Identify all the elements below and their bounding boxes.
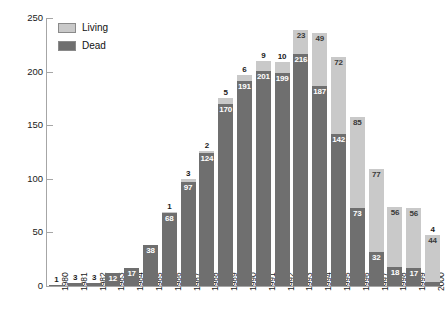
bar-value-label-living: 44	[425, 236, 440, 245]
bar-value-label-dead: 191	[237, 82, 252, 91]
bar-segment-living[interactable]	[275, 62, 290, 73]
bar-value-label-living: 9	[256, 51, 271, 60]
legend-swatch-living-icon	[58, 23, 76, 33]
bar-segment-dead[interactable]	[49, 285, 64, 286]
legend-item-dead: Dead	[58, 38, 108, 53]
bar-value-label-dead: 73	[350, 209, 365, 218]
bar-column[interactable]: 1916	[237, 75, 252, 286]
bar-segment-living[interactable]	[199, 151, 214, 153]
bar-segment-dead[interactable]	[256, 71, 271, 286]
bar-segment-dead[interactable]	[162, 213, 177, 286]
bar-segment-living[interactable]	[237, 75, 252, 81]
bar-value-label-living: 72	[331, 58, 346, 67]
bar-value-label-dead: 1	[49, 275, 64, 284]
bar-value-label-dead: 187	[312, 87, 327, 96]
bar-value-label-dead: 216	[293, 55, 308, 64]
bar-segment-dead[interactable]	[87, 283, 102, 286]
bar-value-label-living: 1	[162, 202, 177, 211]
bar-column[interactable]: 1	[49, 285, 64, 286]
bar-segment-living[interactable]	[350, 117, 365, 208]
bar-segment-dead[interactable]	[331, 134, 346, 286]
bar-column[interactable]: 38	[143, 245, 158, 286]
y-axis-tick-label: 250	[7, 13, 43, 22]
bar-segment-dead[interactable]	[293, 54, 308, 286]
bar-column[interactable]: 7385	[350, 117, 365, 286]
bar-segment-dead[interactable]	[237, 81, 252, 286]
bar-value-label-living: 85	[350, 118, 365, 127]
bar-value-label-living: 5	[218, 88, 233, 97]
bar-value-label-living: 2	[199, 141, 214, 150]
bar-column[interactable]: 3	[87, 283, 102, 286]
bar-value-label-dead: 18	[387, 268, 402, 277]
bar-segment-dead[interactable]	[199, 153, 214, 286]
bar-value-label-dead: 199	[275, 74, 290, 83]
bar-value-label-living: 77	[369, 170, 384, 179]
bar-column[interactable]: 1242	[199, 151, 214, 286]
bar-value-label-dead: 17	[406, 269, 421, 278]
bar-value-label-dead: 12	[105, 274, 120, 283]
bar-column[interactable]: 973	[181, 179, 196, 286]
bar-column[interactable]: 18749	[312, 33, 327, 286]
bar-segment-living[interactable]	[162, 212, 177, 213]
bar-segment-dead[interactable]	[425, 282, 440, 286]
bar-segment-living[interactable]	[369, 169, 384, 252]
bar-value-label-dead: 97	[181, 183, 196, 192]
bar-column[interactable]: 681	[162, 212, 177, 286]
bar-value-label-living: 6	[237, 65, 252, 74]
bar-value-label-living: 23	[293, 31, 308, 40]
bar-value-label-dead: 170	[218, 105, 233, 114]
bar-column[interactable]: 12	[105, 273, 120, 286]
legend-label-living: Living	[82, 23, 108, 33]
bar-column[interactable]: 2019	[256, 61, 271, 286]
legend-label-dead: Dead	[82, 41, 106, 51]
bar-segment-dead[interactable]	[68, 283, 83, 286]
y-axis-tick-label: 150	[7, 120, 43, 129]
bar-segment-dead[interactable]	[181, 182, 196, 286]
stacked-bar-chart: 050100150200250 198019811982198319841985…	[0, 0, 447, 334]
bar-column[interactable]: 14272	[331, 57, 346, 286]
bar-value-label-living: 49	[312, 34, 327, 43]
legend-swatch-dead-icon	[58, 41, 76, 51]
bar-segment-living[interactable]	[218, 98, 233, 103]
y-axis-tick-label: 50	[7, 227, 43, 236]
bar-value-label-dead: 38	[143, 246, 158, 255]
bar-segment-living[interactable]	[331, 57, 346, 134]
bar-value-label-dead: 3	[87, 273, 102, 282]
y-axis-tick-label: 200	[7, 67, 43, 76]
bar-value-label-dead: 124	[199, 154, 214, 163]
plot-area: 1331217386819731242170519162019199102162…	[47, 18, 442, 286]
bar-value-label-dead: 32	[369, 253, 384, 262]
y-axis-tick-label: 0	[7, 281, 43, 290]
bar-value-label-living: 56	[387, 208, 402, 217]
bar-segment-dead[interactable]	[275, 73, 290, 286]
bar-value-label-living: 3	[181, 169, 196, 178]
bar-segment-living[interactable]	[181, 179, 196, 182]
chart-legend: Living Dead	[58, 20, 108, 56]
bar-segment-living[interactable]	[256, 61, 271, 71]
bar-column[interactable]: 17	[124, 268, 139, 286]
bar-column[interactable]: 3277	[369, 169, 384, 286]
bar-column[interactable]: 444	[425, 235, 440, 286]
bar-column[interactable]: 1756	[406, 208, 421, 286]
bar-value-label-dead: 4	[425, 225, 440, 234]
bar-segment-dead[interactable]	[350, 208, 365, 286]
bar-value-label-dead: 17	[124, 269, 139, 278]
bar-segment-dead[interactable]	[312, 86, 327, 286]
bar-column[interactable]: 1705	[218, 98, 233, 286]
bar-column[interactable]: 21623	[293, 30, 308, 286]
bar-column[interactable]: 19910	[275, 62, 290, 286]
bar-value-label-living: 56	[406, 209, 421, 218]
legend-item-living: Living	[58, 20, 108, 35]
bar-segment-dead[interactable]	[218, 104, 233, 286]
bar-column[interactable]: 3	[68, 283, 83, 286]
bar-value-label-living: 10	[275, 52, 290, 61]
y-axis-tick-label: 100	[7, 174, 43, 183]
bar-value-label-dead: 142	[331, 135, 346, 144]
bar-value-label-dead: 201	[256, 72, 271, 81]
bar-value-label-dead: 3	[68, 273, 83, 282]
bar-column[interactable]: 1856	[387, 207, 402, 286]
bar-value-label-dead: 68	[162, 214, 177, 223]
